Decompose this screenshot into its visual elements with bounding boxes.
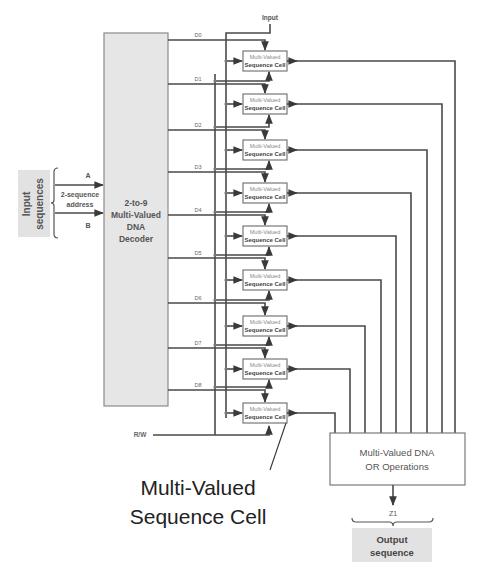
decoder-output-label: D4 <box>194 207 201 213</box>
callout-label-1: Multi-Valued <box>140 476 255 499</box>
input-junction-dot <box>224 411 227 414</box>
input-bus: Input <box>226 14 279 418</box>
decoder-output-wire <box>168 40 265 50</box>
decoder-label-1: 2-to-9 <box>124 198 147 208</box>
input-sequences-label-1: Input <box>21 191 32 216</box>
sequence-cell-label-1: Multi-Valued <box>250 406 281 412</box>
decoder-label-4: Decoder <box>119 234 154 244</box>
decoder-output-label: D1 <box>194 76 201 82</box>
sequence-cell-label-2: Sequence Cell <box>244 105 285 111</box>
signal-a-label: A <box>85 172 90 179</box>
rw-branch-wire <box>215 337 269 345</box>
memory-diagram: Input sequences A 2-sequence address B 2… <box>0 0 482 576</box>
decoder-output-wire <box>168 84 265 93</box>
sequence-cell-label-1: Multi-Valued <box>250 186 281 192</box>
input-junction-dot <box>224 278 227 281</box>
sequence-cell-label-1: Multi-Valued <box>250 319 281 325</box>
rw-label: R/W <box>134 431 148 438</box>
cell-output-wire <box>297 326 365 433</box>
sequence-cell-group: D3Multi-ValuedSequence Cell <box>168 161 411 433</box>
decoder-output-label: D3 <box>194 164 201 170</box>
z1-label: Z1 <box>389 510 397 517</box>
input-junction-dot <box>224 367 227 370</box>
input-sequences-label-2: sequences <box>34 178 45 230</box>
top-input-label: Input <box>262 14 279 22</box>
sequence-cell-label-2: Sequence Cell <box>244 151 285 157</box>
output-label-1: Output <box>376 534 408 545</box>
address-label-1: 2-sequence <box>61 191 100 199</box>
decoder-block: 2-to-9 Multi-Valued DNA Decoder <box>104 33 168 406</box>
output-brace <box>352 518 433 526</box>
sequence-cell-group: D8Multi-ValuedSequence Cell <box>168 380 335 433</box>
rw-branch-wire <box>215 247 269 255</box>
sequence-cell-label-1: Multi-Valued <box>250 54 281 60</box>
cell-output-wire <box>297 280 381 433</box>
rw-junction-dot <box>213 79 216 82</box>
cell-output-wire <box>297 193 411 433</box>
rw-branch-wire <box>215 161 269 169</box>
decoder-output-label: D0 <box>194 32 201 38</box>
rw-junction-dot <box>213 210 216 213</box>
decoder-label-3: DNA <box>127 222 145 232</box>
rw-branch-wire <box>215 115 269 127</box>
sequence-cell-label-2: Sequence Cell <box>244 194 285 200</box>
or-operations-box <box>330 433 465 485</box>
cells-layer: D0Multi-ValuedSequence CellD1Multi-Value… <box>168 32 455 433</box>
rw-branch-wire <box>215 204 269 212</box>
sequence-cell-label-2: Sequence Cell <box>244 327 285 333</box>
sequence-cell-label-1: Multi-Valued <box>250 273 281 279</box>
rw-wire-main <box>153 426 269 435</box>
cell-output-wire <box>297 413 335 433</box>
sequence-cell-label-1: Multi-Valued <box>250 143 281 149</box>
input-junction-dot <box>224 234 227 237</box>
input-brace <box>51 168 58 238</box>
decoder-output-wire <box>168 258 265 269</box>
sequence-cell-label-1: Multi-Valued <box>250 97 281 103</box>
sequence-cell-label-2: Sequence Cell <box>244 237 285 243</box>
decoder-output-label: D5 <box>194 250 201 256</box>
sequence-cell-label-1: Multi-Valued <box>250 229 281 235</box>
rw-branch-wire <box>215 72 269 81</box>
callout: Multi-Valued Sequence Cell <box>130 423 286 528</box>
rw-junction-dot <box>213 298 216 301</box>
input-junction-dot <box>224 102 227 105</box>
cell-output-wire <box>297 61 455 433</box>
cell-output-wire <box>297 104 442 433</box>
rw-junction-dot <box>213 253 216 256</box>
address-label-2: address <box>67 201 94 208</box>
sequence-cell-label-2: Sequence Cell <box>244 62 285 68</box>
rw-branch-wire <box>215 291 269 300</box>
decoder-output-wire <box>168 130 265 139</box>
decoder-output-label: D2 <box>194 122 201 128</box>
output-label-2: sequence <box>370 547 414 558</box>
decoder-output-label: D7 <box>194 340 201 346</box>
callout-label-2: Sequence Cell <box>130 505 267 528</box>
decoder-output-label: D6 <box>194 295 201 301</box>
sequence-cell-label-2: Sequence Cell <box>244 370 285 376</box>
or-label-2: OR Operations <box>365 461 429 472</box>
decoder-output-wire <box>168 348 265 358</box>
rw-junction-dot <box>213 343 216 346</box>
input-sequences-block: Input sequences A 2-sequence address B <box>18 168 103 238</box>
signal-b-label: B <box>85 222 90 229</box>
decoder-output-wire <box>168 172 265 182</box>
rw-junction-dot <box>213 385 216 388</box>
sequence-cell-group: D1Multi-ValuedSequence Cell <box>168 72 442 433</box>
decoder-label-2: Multi-Valued <box>111 210 161 220</box>
sequence-cell-group: D2Multi-ValuedSequence Cell <box>168 115 427 433</box>
rw-junction-dot <box>213 167 216 170</box>
decoder-output-wire <box>168 390 265 402</box>
or-block: Multi-Valued DNA OR Operations Z1 Output… <box>330 433 465 562</box>
cell-output-wire <box>297 369 350 433</box>
sequence-cell-label-2: Sequence Cell <box>244 414 285 420</box>
input-junction-dot <box>224 148 227 151</box>
decoder-output-wire <box>168 215 265 225</box>
sequence-cell-group: D0Multi-ValuedSequence Cell <box>168 32 455 433</box>
or-label-1: Multi-Valued DNA <box>360 447 435 458</box>
input-junction-dot <box>224 59 227 62</box>
rw-branch-wire <box>215 380 269 387</box>
input-junction-dot <box>224 324 227 327</box>
callout-line <box>270 423 286 470</box>
decoder-output-label: D8 <box>194 382 201 388</box>
decoder-output-wire <box>168 303 265 315</box>
